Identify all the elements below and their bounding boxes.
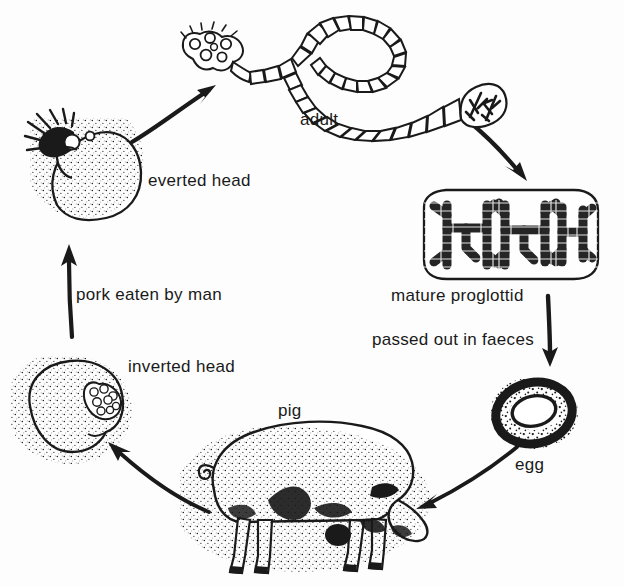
adult-tapeworm-drawing — [181, 16, 507, 141]
label-everted-head: everted head — [148, 172, 251, 189]
label-pork-eaten-by-man: pork eaten by man — [76, 286, 222, 303]
arrow-proglottid-to-egg — [542, 296, 558, 367]
label-passed-out-in-faeces: passed out in faeces — [372, 331, 534, 348]
everted-head-drawing — [25, 109, 160, 230]
arrow-inverted-to-everted — [61, 244, 77, 337]
inverted-head-drawing — [10, 350, 140, 468]
egg-drawing — [486, 371, 582, 455]
life-cycle-diagram: adult everted head pork eaten by man inv… — [0, 0, 624, 586]
adult-strobila — [250, 16, 461, 141]
mature-proglottid-drawing — [424, 190, 598, 279]
pig-drawing — [180, 420, 440, 580]
label-mature-proglottid: mature proglottid — [391, 287, 524, 304]
label-adult: adult — [300, 111, 338, 128]
label-pig: pig — [278, 402, 302, 419]
label-inverted-head: inverted head — [128, 358, 235, 375]
adult-gravid-proglottid — [461, 84, 507, 127]
label-egg: egg — [515, 456, 544, 473]
arrow-adult-to-proglottid — [466, 119, 527, 181]
